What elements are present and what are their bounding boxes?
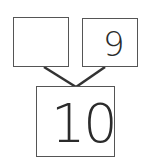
whole-value: 10 — [51, 97, 116, 151]
part-right-value: 9 — [103, 27, 125, 61]
connector-right — [76, 67, 105, 87]
whole-box: 10 — [36, 86, 115, 157]
part-box-right: 9 — [82, 18, 138, 67]
part-box-left[interactable] — [13, 17, 69, 67]
connector-left — [44, 67, 76, 87]
